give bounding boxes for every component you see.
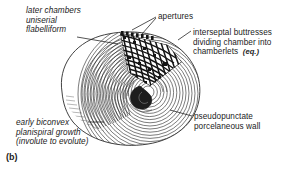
label-interseptal-emphasis: (eq.) [243,47,259,56]
label-later-chambers: later chambers uniserial flabelliform [26,6,81,35]
leader-apertures-a [132,17,156,30]
label-later-chambers-line2: uniserial [26,16,57,25]
label-interseptal-buttresses: interseptal buttresses dividing chamber … [193,28,272,57]
label-interseptal-line1: interseptal buttresses [193,28,272,37]
label-later-chambers-line1: later chambers [26,6,81,15]
label-early-growth: early biconvex planispiral growth (invol… [16,118,89,147]
foraminifera-figure: later chambers uniserial flabelliform ap… [0,0,296,170]
label-apertures: apertures [158,12,193,22]
label-early-growth-line2: planispiral growth [16,128,81,137]
figure-caption: (b) [6,152,18,162]
label-interseptal-line3: chamberlets [193,47,238,56]
label-later-chambers-line3: flabelliform [26,25,66,34]
label-pseudopunctate-line1: pseudopunctate [194,112,253,121]
label-pseudopunctate-wall: pseudopunctate porcelaneous wall [194,112,260,131]
leader-interseptal [178,31,191,40]
label-pseudopunctate-line2: porcelaneous wall [194,122,260,131]
label-early-growth-line3: (involute to evolute) [16,137,89,146]
label-interseptal-line2: dividing chamber into [193,38,271,47]
label-apertures-line1: apertures [158,12,193,21]
label-early-growth-line1: early biconvex [16,118,69,127]
